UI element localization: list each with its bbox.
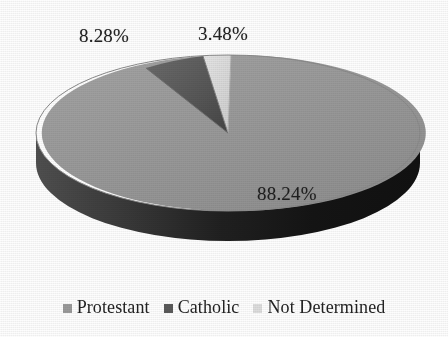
chart-legend: Protestant Catholic Not Determined	[0, 292, 448, 322]
legend-swatch-catholic	[164, 304, 173, 313]
legend-item-protestant[interactable]: Protestant	[63, 298, 150, 316]
legend-item-not-determined[interactable]: Not Determined	[253, 298, 385, 316]
data-label-protestant: 88.24%	[257, 184, 317, 203]
legend-item-catholic[interactable]: Catholic	[164, 298, 240, 316]
legend-label-catholic: Catholic	[178, 298, 240, 316]
data-label-catholic: 8.28%	[79, 26, 129, 45]
legend-label-protestant: Protestant	[77, 298, 150, 316]
pie-slice-protestant	[42, 55, 426, 211]
legend-swatch-protestant	[63, 304, 72, 313]
legend-swatch-not-determined	[253, 304, 262, 313]
pie-chart-figure: 8.28% 3.48% 88.24% Protestant Catholic N…	[0, 0, 448, 337]
legend-label-not-determined: Not Determined	[267, 298, 385, 316]
data-label-not-determined: 3.48%	[198, 24, 248, 43]
plot-area: 8.28% 3.48% 88.24%	[0, 0, 448, 290]
